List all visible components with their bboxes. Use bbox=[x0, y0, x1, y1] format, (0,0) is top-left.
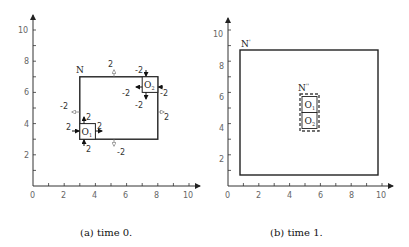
x-tick-label: 10 bbox=[376, 191, 386, 200]
n-top-annotation: 2 bbox=[108, 60, 113, 69]
panel-a: 0 2 4 6 8 10 2 4 6 8 10 N O1 O2 2 -2 -2 … bbox=[18, 15, 200, 238]
y-tick-label: 10 bbox=[18, 26, 28, 35]
y-tick-label: 8 bbox=[24, 57, 29, 66]
x-tick-label: 6 bbox=[318, 191, 323, 200]
x-tick-label: 6 bbox=[123, 191, 128, 200]
o2-right-annotation: -2 bbox=[160, 89, 168, 98]
o1-right-annotation: 2 bbox=[97, 122, 102, 131]
x-tick-label: 10 bbox=[183, 191, 193, 200]
n-right-annotation: 2 bbox=[164, 113, 169, 122]
y-tick-label: 4 bbox=[24, 120, 29, 129]
x-tick-label: 0 bbox=[30, 191, 35, 200]
y-tick-label: 6 bbox=[219, 93, 224, 102]
y-tick-label: 2 bbox=[219, 155, 224, 164]
caption-b: (b) time 1. bbox=[270, 227, 323, 238]
o1-top-annotation: 2 bbox=[86, 113, 91, 122]
region-n-label: N bbox=[76, 65, 84, 75]
o2-bottom-annotation: -2 bbox=[135, 101, 143, 110]
x-tick-label: 4 bbox=[92, 191, 97, 200]
figure: 0 2 4 6 8 10 2 4 6 8 10 N O1 O2 2 -2 -2 … bbox=[0, 0, 409, 247]
o2-left-annotation: -2 bbox=[122, 89, 130, 98]
o1-bottom-annotation: 2 bbox=[86, 145, 91, 154]
y-tick-label: 10 bbox=[213, 30, 223, 39]
x-tick-label: 8 bbox=[154, 191, 159, 200]
y-tick-label: 8 bbox=[219, 62, 224, 71]
region-n-prime-label: N' bbox=[241, 38, 251, 49]
o2-top-annotation: -2 bbox=[135, 66, 143, 75]
caption-a: (a) time 0. bbox=[80, 227, 132, 238]
o1-left-annotation: 2 bbox=[66, 123, 71, 132]
panel-b: 0 2 4 6 8 10 2 4 6 8 10 N' N'' O1 O2 (b)… bbox=[213, 18, 393, 238]
x-tick-label: 4 bbox=[287, 191, 292, 200]
region-n-double-prime-label: N'' bbox=[298, 82, 310, 93]
x-tick-label: 2 bbox=[61, 191, 66, 200]
n-bottom-annotation: -2 bbox=[117, 148, 125, 157]
n-left-annotation: -2 bbox=[60, 102, 68, 111]
x-tick-label: 8 bbox=[349, 191, 354, 200]
x-tick-label: 2 bbox=[256, 191, 261, 200]
y-tick-label: 2 bbox=[24, 151, 29, 160]
y-tick-label: 4 bbox=[219, 124, 224, 133]
x-tick-label: 0 bbox=[225, 191, 230, 200]
y-tick-label: 6 bbox=[24, 88, 29, 97]
